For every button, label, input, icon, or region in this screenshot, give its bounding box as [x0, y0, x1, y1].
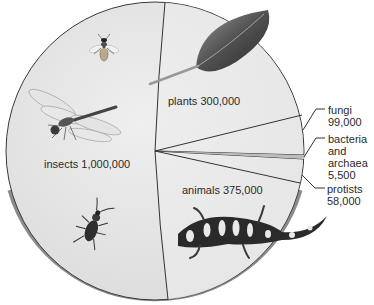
- fungi-callout: fungi 99,000: [328, 104, 362, 128]
- bacteria-archaea-callout: bacteria and archaea 5,500: [328, 133, 368, 181]
- bacteria-line-3: archaea: [328, 157, 368, 169]
- protists-value: 58,000: [327, 195, 362, 207]
- fungi-value: 99,000: [328, 116, 362, 128]
- callout-leaders: [302, 109, 325, 188]
- protists-name: protists: [327, 183, 362, 195]
- bacteria-line-1: bacteria: [328, 133, 368, 145]
- insects-label: insects 1,000,000: [44, 158, 130, 170]
- fungi-name: fungi: [328, 104, 362, 116]
- plants-label: plants 300,000: [168, 95, 240, 107]
- bacteria-value: 5,500: [328, 169, 368, 181]
- protists-callout: protists 58,000: [327, 183, 362, 207]
- animals-label: animals 375,000: [182, 184, 263, 196]
- pie-chart: [0, 0, 374, 305]
- bacteria-line-2: and: [328, 145, 368, 157]
